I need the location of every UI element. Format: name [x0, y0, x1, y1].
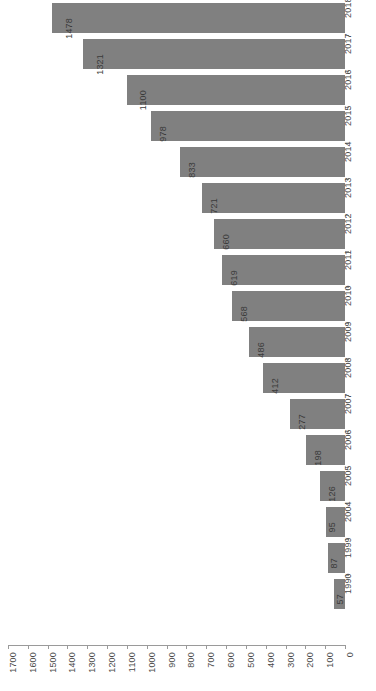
bar: [232, 291, 345, 321]
bar-row: 7212013: [0, 183, 376, 213]
x-axis-tick: [87, 645, 88, 649]
x-axis-tick-label: 1400: [67, 652, 77, 673]
bar-category-label: 2010: [343, 285, 353, 306]
plot-area: 1478201813212017110020169782015833201472…: [0, 0, 376, 644]
bar: [214, 219, 345, 249]
bar-value-label: 660: [221, 234, 231, 250]
bar-value-label: 1321: [95, 54, 105, 75]
bar-row: 9782015: [0, 111, 376, 141]
bar-value-label: 1478: [64, 18, 74, 39]
x-axis-tick-label: 1000: [147, 652, 157, 673]
x-axis-tick: [305, 645, 306, 649]
bar-category-label: 2011: [343, 250, 353, 270]
x-axis-tick-label: 100: [325, 652, 335, 668]
bar: [151, 111, 345, 141]
bar-row: 6192011: [0, 255, 376, 285]
bar: [52, 3, 345, 33]
bar: [127, 75, 345, 105]
x-axis-tick-label: 1100: [127, 652, 137, 672]
x-axis-tick-label: 600: [226, 652, 236, 668]
x-axis-tick-label: 1700: [8, 652, 18, 673]
bar-category-label: 1990: [343, 573, 353, 594]
bar-row: 4862009: [0, 327, 376, 357]
x-axis: 1700160015001400130012001100100090080070…: [0, 645, 376, 691]
bar-row: 952004: [0, 507, 376, 537]
x-axis-tick: [127, 645, 128, 649]
bar-category-label: 2004: [343, 501, 353, 522]
bar: [180, 147, 345, 177]
bar-category-label: 2012: [343, 213, 353, 234]
bar-row: 1982006: [0, 435, 376, 465]
x-axis-tick: [186, 645, 187, 649]
bar: [222, 255, 345, 285]
bar-category-label: 2007: [343, 393, 353, 414]
x-axis-tick: [67, 645, 68, 649]
bar-row: 13212017: [0, 39, 376, 69]
bar-category-label: 2016: [343, 69, 353, 90]
bar-value-label: 568: [239, 306, 249, 322]
bar-row: 6602012: [0, 219, 376, 249]
x-axis-tick-label: 1500: [48, 652, 58, 673]
bar-row: 571990: [0, 579, 376, 609]
bar-value-label: 126: [327, 486, 337, 502]
bar: [83, 39, 345, 69]
x-axis-tick-label: 200: [305, 652, 315, 668]
bar: [306, 435, 345, 465]
x-axis-tick-label: 300: [286, 652, 296, 668]
x-axis-line: [8, 645, 346, 646]
bar-value-label: 619: [229, 270, 239, 286]
x-axis-tick-label: 900: [167, 652, 177, 668]
x-axis-tick: [206, 645, 207, 649]
bar: [202, 183, 345, 213]
bar-value-label: 833: [186, 162, 196, 178]
bar-category-label: 1999: [343, 537, 353, 558]
bar-row: 2772007: [0, 399, 376, 429]
bar-category-label: 2014: [343, 141, 353, 162]
bar-chart: 1478201813212017110020169782015833201472…: [0, 0, 376, 691]
x-axis-tick: [48, 645, 49, 649]
x-axis-tick-label: 800: [186, 652, 196, 668]
bar-value-label: 721: [209, 198, 219, 214]
bar-category-label: 2017: [343, 33, 353, 54]
bar-category-label: 2005: [343, 465, 353, 486]
bar-category-label: 2009: [343, 321, 353, 342]
bar-value-label: 486: [255, 342, 265, 358]
x-axis-tick: [107, 645, 108, 649]
x-axis-tick: [226, 645, 227, 649]
bar-row: 8332014: [0, 147, 376, 177]
x-axis-tick: [286, 645, 287, 649]
x-axis-tick-label: 400: [266, 652, 276, 668]
bar-category-label: 2013: [343, 177, 353, 198]
x-axis-tick-label: 700: [206, 652, 216, 668]
bar-value-label: 1100: [138, 90, 148, 110]
x-axis-tick-label: 0: [345, 652, 355, 657]
bar-value-label: 87: [329, 558, 339, 568]
bar-row: 5682010: [0, 291, 376, 321]
x-axis-tick-label: 1300: [87, 652, 97, 673]
bar-value-label: 95: [328, 522, 338, 532]
bar-value-label: 198: [312, 450, 322, 466]
x-axis-tick: [345, 645, 346, 649]
x-axis-tick-label: 1600: [28, 652, 38, 673]
x-axis-tick: [28, 645, 29, 649]
bar-row: 871999: [0, 543, 376, 573]
bar-value-label: 277: [297, 414, 307, 430]
bar-category-label: 2018: [343, 0, 353, 18]
x-axis-tick: [167, 645, 168, 649]
x-axis-tick-label: 500: [246, 652, 256, 668]
bar-value-label: 412: [270, 378, 280, 394]
x-axis-tick: [266, 645, 267, 649]
bar-value-label: 57: [335, 594, 345, 604]
x-axis-tick: [8, 645, 9, 649]
x-axis-tick: [246, 645, 247, 649]
bar-category-label: 2006: [343, 429, 353, 450]
bar-row: 4122008: [0, 363, 376, 393]
bar-row: 1262005: [0, 471, 376, 501]
bar-value-label: 978: [158, 126, 168, 142]
bar-row: 14782018: [0, 3, 376, 33]
x-axis-tick: [325, 645, 326, 649]
bar-category-label: 2008: [343, 357, 353, 378]
bar-row: 11002016: [0, 75, 376, 105]
x-axis-tick: [147, 645, 148, 649]
x-axis-tick-label: 1200: [107, 652, 117, 673]
